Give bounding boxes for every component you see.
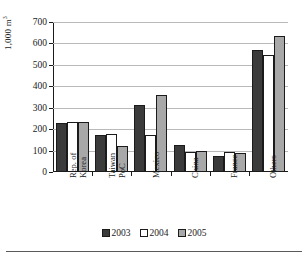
y-tick-label: 400 <box>33 81 47 91</box>
y-tick-label: 300 <box>33 103 47 113</box>
bar-group-bars <box>171 22 210 172</box>
legend-label: 2005 <box>188 228 207 238</box>
bar-france-2003[interactable] <box>213 156 224 172</box>
x-tick-mark <box>210 172 211 176</box>
y-tick-mark <box>49 172 53 173</box>
y-tick-label: 0 <box>42 167 47 177</box>
x-category-label-line: China <box>190 157 200 178</box>
x-tick-mark <box>131 172 132 176</box>
x-category-label: Mexico <box>151 152 161 178</box>
legend-swatch-icon <box>102 229 110 237</box>
bar-group-bars <box>131 22 170 172</box>
y-axis-title-superscript: 3 <box>2 16 8 19</box>
bar-group-bars <box>249 22 288 172</box>
bar-rep-of-korea-2003[interactable] <box>56 123 67 172</box>
chart-legend: 200320042005 <box>0 228 308 238</box>
x-tick-mark <box>92 172 93 176</box>
bar-group-bars <box>53 22 92 172</box>
y-axis-title-text: 1,000 m <box>3 19 13 50</box>
x-category-label: France <box>229 155 239 178</box>
y-tick-label: 600 <box>33 38 47 48</box>
legend-label: 2004 <box>150 228 169 238</box>
bar-others-2003[interactable] <box>252 50 263 172</box>
plot-area: 0100200300400500600700 <box>53 22 288 172</box>
y-tick-label: 500 <box>33 60 47 70</box>
legend-item-2005[interactable]: 2005 <box>178 228 207 238</box>
legend-item-2004[interactable]: 2004 <box>140 228 169 238</box>
y-tick-label: 200 <box>33 124 47 134</box>
bar-group <box>210 22 249 172</box>
x-category-label-line: Rep. of <box>68 153 78 178</box>
bar-group <box>249 22 288 172</box>
x-category-label-line: Taiwan <box>107 153 117 178</box>
bar-chart-figure: 1,000 m3 0100200300400500600700 Rep. ofK… <box>0 0 308 262</box>
x-category-label: Others <box>268 155 278 178</box>
bar-group <box>92 22 131 172</box>
x-category-label-line: Mexico <box>151 152 161 178</box>
y-tick-label: 700 <box>33 17 47 27</box>
x-category-label: Rep. ofKorea <box>68 153 88 178</box>
x-tick-mark <box>171 172 172 176</box>
bar-group <box>53 22 92 172</box>
y-tick-label: 100 <box>33 146 47 156</box>
bar-mexico-2003[interactable] <box>134 105 145 172</box>
legend-item-2003[interactable]: 2003 <box>102 228 131 238</box>
x-category-label: TaiwanPoC <box>107 153 127 178</box>
legend-swatch-icon <box>178 229 186 237</box>
x-category-label-line: PoC <box>117 153 127 178</box>
y-axis-title: 1,000 m3 <box>2 0 20 73</box>
x-category-label-line: France <box>229 155 239 178</box>
bar-group-bars <box>92 22 131 172</box>
bar-group <box>171 22 210 172</box>
bar-group <box>131 22 170 172</box>
bar-group-bars <box>210 22 249 172</box>
x-category-label-line: Others <box>268 155 278 178</box>
legend-swatch-icon <box>140 229 148 237</box>
legend-label: 2003 <box>112 228 131 238</box>
x-tick-mark <box>249 172 250 176</box>
bar-others-2005[interactable] <box>274 36 285 172</box>
bar-china-2003[interactable] <box>174 145 185 172</box>
bottom-divider <box>6 251 302 252</box>
x-category-label: China <box>190 157 200 178</box>
x-category-label-line: Korea <box>78 153 88 178</box>
bar-taiwan-poc-2003[interactable] <box>95 135 106 172</box>
